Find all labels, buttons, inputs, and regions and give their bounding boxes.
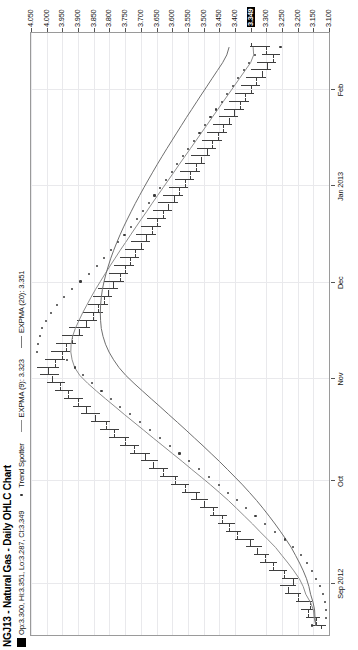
trend-spotter-dot [284, 538, 286, 540]
trend-spotter-dot [100, 390, 102, 392]
date-tick [331, 583, 335, 584]
plot-area[interactable] [30, 32, 330, 636]
trend-spotter-dot [215, 108, 217, 110]
legend-item-trend-spotter[interactable]: Trend Spotter [17, 443, 26, 499]
trend-spotter-dot [165, 179, 167, 181]
trend-spotter-dot [79, 280, 81, 282]
gridline-horizontal [329, 33, 330, 635]
trend-spotter-dot [325, 609, 327, 611]
price-tick-label: 3.900 [74, 10, 82, 28]
trend-spotter-dot [254, 54, 256, 56]
legend-item-quote[interactable]: Op:3.300, Hi:3.351, Lo:3.287, Cl:3.349 [17, 511, 26, 647]
price-tick-label: 3.200 [294, 10, 302, 28]
trend-spotter-dot [178, 452, 180, 454]
quote-summary: Op:3.300, Hi:3.351, Lo:3.287, Cl:3.349 [17, 511, 26, 635]
price-tick [204, 28, 205, 32]
trend-spotter-dot [274, 531, 276, 533]
trend-spotter-dot [232, 85, 234, 87]
line-marker-icon [17, 336, 26, 348]
price-tick [157, 28, 158, 32]
date-axis: Sep 2012OctNovDecJan 2013Feb [331, 32, 353, 636]
price-tick [235, 28, 236, 32]
trend-spotter-dot [193, 140, 195, 142]
trend-spotter-dot [153, 194, 155, 196]
price-tick [109, 28, 110, 32]
price-tick-label: 3.250 [278, 10, 286, 28]
price-tick-label: 3.650 [153, 10, 161, 28]
price-tick-label: 4.050 [27, 10, 35, 28]
price-tick [298, 28, 299, 32]
trend-spotter-dot [159, 437, 161, 439]
current-price-label: 3.349 [247, 8, 255, 28]
price-tick [251, 28, 252, 32]
price-tick-label: 3.550 [184, 10, 192, 28]
date-tick [331, 89, 335, 90]
moving-average-layer [31, 33, 329, 635]
date-tick [331, 378, 335, 379]
trend-spotter-dot [96, 265, 98, 267]
date-tick-label: Nov [336, 373, 345, 386]
trend-spotter-dot [248, 62, 250, 64]
trend-spotter-dot [227, 492, 229, 494]
price-tick-label: 3.950 [58, 10, 66, 28]
date-tick-label: Oct [336, 476, 345, 487]
trend-spotter-dot [45, 320, 47, 322]
date-tick [331, 481, 335, 482]
legend: Op:3.300, Hi:3.351, Lo:3.287, Cl:3.349 T… [16, 260, 27, 647]
date-tick-label: Dec [336, 277, 345, 290]
price-tick [188, 28, 189, 32]
trend-spotter-dot [169, 445, 171, 447]
price-tick-label: 3.450 [215, 10, 223, 28]
trend-spotter-dot [74, 366, 76, 368]
date-tick-label: Jan 2013 [336, 172, 345, 201]
price-tick [219, 28, 220, 32]
legend-item-expma9[interactable]: EXPMA (9): 3.323 [17, 359, 26, 432]
price-tick-label: 3.800 [105, 10, 113, 28]
expma9-line [71, 47, 316, 626]
price-tick [172, 28, 173, 32]
trend-spotter-dot [123, 234, 125, 236]
trend-spotter-dot [264, 523, 266, 525]
trend-spotter-dot [66, 359, 68, 361]
trend-spotter-dot [221, 101, 223, 103]
legend-item-expma20[interactable]: EXPMA (20): 3.351 [17, 271, 26, 348]
price-tick-label: 3.150 [309, 10, 317, 28]
trend-spotter-dot [218, 484, 220, 486]
trend-spotter-dot [110, 398, 112, 400]
price-tick-label: 4.000 [43, 10, 51, 28]
date-tick [331, 282, 335, 283]
price-tick [62, 28, 63, 32]
price-tick-label: 3.400 [231, 10, 239, 28]
price-tick [47, 28, 48, 32]
price-tick-label: 3.500 [200, 10, 208, 28]
trend-spotter-dot [311, 624, 313, 626]
chart-header: NGJ13 - Natural Gas - Daily OHLC Chart O… [2, 3, 28, 647]
line-marker-icon [17, 420, 26, 432]
ohlc-swatch-icon [17, 638, 26, 647]
price-tick [313, 28, 314, 32]
dot-marker-icon [17, 491, 26, 500]
date-tick-label: Feb [336, 84, 345, 96]
rotated-chart-wrapper: NGJ13 - Natural Gas - Daily OHLC Chart O… [0, 0, 358, 650]
trend-spotter-dot [279, 46, 281, 48]
price-tick-label: 3.750 [121, 10, 129, 28]
price-tick-label: 3.700 [137, 10, 145, 28]
date-tick-label: Sep 2012 [336, 569, 345, 599]
ohlc-chart: NGJ13 - Natural Gas - Daily OHLC Chart O… [0, 0, 358, 650]
price-axis: 4.0504.0003.9503.9003.8503.8003.7503.700… [30, 0, 330, 32]
price-tick [94, 28, 95, 32]
trend-spotter-dot [88, 273, 90, 275]
trend-spotter-dot [325, 617, 327, 619]
trend-spotter-dot [315, 578, 317, 580]
price-tick [31, 28, 32, 32]
trend-spotter-dot [324, 601, 326, 603]
price-tick [78, 28, 79, 32]
price-tick [141, 28, 142, 32]
trend-spotter-dot [254, 515, 256, 517]
trend-spotter-dot [171, 171, 173, 173]
price-tick [329, 28, 330, 32]
price-tick-label: 3.300 [262, 10, 270, 28]
legend-label-expma20: EXPMA (20): 3.351 [17, 271, 26, 333]
trend-spotter-dot [198, 132, 200, 134]
price-tick-label: 3.100 [325, 10, 333, 28]
